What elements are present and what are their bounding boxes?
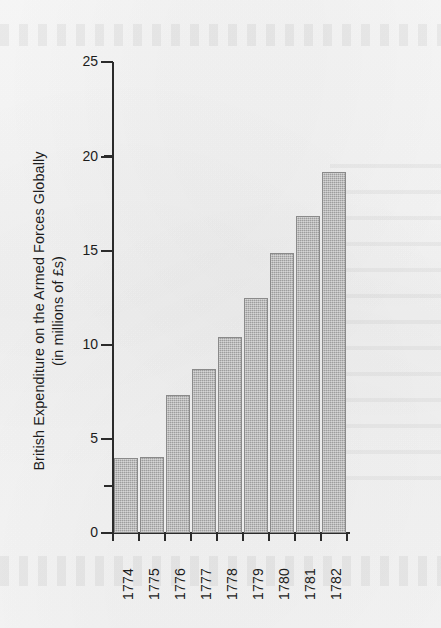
bar-1778[interactable] [218, 337, 242, 533]
x-tick-9 [346, 532, 348, 541]
x-tick-3 [190, 532, 192, 541]
y-tick-label-25: 25 [58, 53, 98, 69]
x-tick-6 [268, 532, 270, 541]
y-tick-label-10: 10 [58, 336, 98, 352]
bar-1782[interactable] [322, 172, 346, 533]
bar-1781[interactable] [296, 216, 320, 533]
x-tick-label-1775: 1775 [146, 568, 162, 600]
x-tick-label-1774: 1774 [120, 568, 136, 600]
y-tick-label-5: 5 [58, 430, 98, 446]
y-tick-5 [101, 438, 113, 440]
x-tick-7 [294, 532, 296, 541]
bar-1777[interactable] [192, 369, 216, 533]
y-tick-label-0: 0 [58, 524, 98, 540]
bar-1775[interactable] [140, 457, 164, 533]
y-tick-25 [101, 61, 113, 63]
x-tick-label-1777: 1777 [198, 568, 214, 600]
bar-1774[interactable] [114, 458, 138, 533]
x-tick-label-1780: 1780 [276, 568, 292, 600]
y-tick-15 [101, 250, 113, 252]
x-tick-label-1776: 1776 [172, 568, 188, 600]
bar-chart-figure: British Expenditure on the Armed Forces … [0, 0, 441, 628]
y-tick-label-15: 15 [58, 242, 98, 258]
y-tick-label-20: 20 [58, 148, 98, 164]
plot-area [113, 62, 346, 533]
bar-1779[interactable] [244, 298, 268, 534]
x-tick-label-1778: 1778 [224, 568, 240, 600]
y-tick-minor-2.5 [104, 485, 113, 487]
y-tick-20 [101, 156, 113, 158]
x-tick-label-1781: 1781 [302, 568, 318, 600]
bar-1780[interactable] [270, 253, 294, 533]
y-tick-10 [101, 344, 113, 346]
x-tick-label-1779: 1779 [250, 568, 266, 600]
x-tick-2 [164, 532, 166, 541]
x-tick-1 [138, 532, 140, 541]
x-tick-label-1782: 1782 [328, 568, 344, 600]
bar-1776[interactable] [166, 395, 190, 533]
x-tick-4 [216, 532, 218, 541]
x-tick-5 [242, 532, 244, 541]
x-tick-8 [320, 532, 322, 541]
x-tick-0 [112, 532, 114, 541]
